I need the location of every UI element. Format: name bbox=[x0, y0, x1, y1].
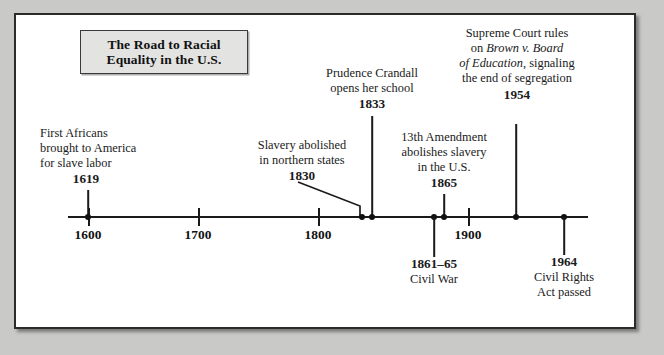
leader-stem-1861 bbox=[433, 217, 435, 257]
annotation-year: 1833 bbox=[310, 96, 434, 112]
annotation-line: Act passed bbox=[514, 285, 614, 300]
annotation-year: 1954 bbox=[458, 87, 576, 103]
annotation-line: brought to America bbox=[40, 141, 136, 156]
annotation-civil-war: 1861–65 Civil War bbox=[384, 256, 484, 287]
timeline-canvas: The Road to Racial Equality in the U.S. … bbox=[0, 0, 664, 355]
figure-title-box: The Road to Racial Equality in the U.S. bbox=[80, 30, 248, 74]
annotation-line: Civil Rights bbox=[514, 270, 614, 285]
event-dot-1619 bbox=[85, 214, 91, 220]
timeline-axis bbox=[68, 216, 588, 218]
annotation-line: abolishes slavery bbox=[386, 145, 502, 160]
annotation-prudence-crandall: Prudence Crandall opens her school 1833 bbox=[310, 66, 434, 112]
annotation-line: opens her school bbox=[310, 81, 434, 96]
annotation-text: on bbox=[471, 41, 487, 55]
axis-tick-label-1600: 1600 bbox=[75, 227, 102, 243]
annotation-line: in northern states bbox=[244, 153, 360, 168]
annotation-line: Civil War bbox=[384, 272, 484, 287]
annotation-year: 1619 bbox=[40, 171, 132, 187]
annotation-year: 1964 bbox=[514, 254, 614, 270]
annotation-line: Prudence Crandall bbox=[310, 66, 434, 81]
annotation-line: First Africans bbox=[40, 126, 136, 141]
axis-tick-1900 bbox=[468, 208, 470, 226]
axis-tick-1800 bbox=[318, 208, 320, 226]
figure-title-line-1: The Road to Racial bbox=[107, 37, 220, 52]
annotation-year: 1861–65 bbox=[384, 256, 484, 272]
annotation-first-africans: First Africans brought to America for sl… bbox=[40, 126, 136, 187]
annotation-line: for slave labor bbox=[40, 156, 136, 171]
axis-tick-label-1800: 1800 bbox=[305, 227, 332, 243]
leader-stem-1954 bbox=[515, 124, 517, 216]
case-name-italic: Brown v. Board bbox=[486, 41, 563, 55]
annotation-line: the end of segregation bbox=[458, 71, 576, 86]
axis-tick-label-1700: 1700 bbox=[185, 227, 212, 243]
annotation-line: Slavery abolished bbox=[244, 138, 360, 153]
leader-stem-1833 bbox=[371, 116, 373, 216]
annotation-line: on Brown v. Board bbox=[458, 41, 576, 56]
annotation-line: 13th Amendment bbox=[386, 130, 502, 145]
annotation-line: Supreme Court rules bbox=[458, 26, 576, 41]
annotation-slavery-abolished-north: Slavery abolished in northern states 183… bbox=[244, 138, 360, 184]
figure-title-line-2: Equality in the U.S. bbox=[107, 52, 222, 67]
leader-stem-1865 bbox=[443, 194, 445, 216]
event-dot-1833 bbox=[369, 214, 375, 220]
leader-stem-1964 bbox=[563, 217, 565, 255]
event-dot-1865 bbox=[441, 214, 447, 220]
annotation-line: of Education, signaling bbox=[458, 56, 576, 71]
annotation-thirteenth-amendment: 13th Amendment abolishes slavery in the … bbox=[386, 130, 502, 191]
annotation-text: , signaling bbox=[523, 56, 575, 70]
event-dot-1954 bbox=[513, 214, 519, 220]
axis-tick-1700 bbox=[198, 208, 200, 226]
annotation-year: 1865 bbox=[386, 175, 502, 191]
event-dot-1830 bbox=[359, 214, 365, 220]
axis-tick-label-1900: 1900 bbox=[455, 227, 482, 243]
timeline-figure: The Road to Racial Equality in the U.S. … bbox=[0, 0, 664, 355]
case-name-italic-cont: of Education bbox=[459, 56, 523, 70]
annotation-civil-rights-act: 1964 Civil Rights Act passed bbox=[514, 254, 614, 300]
annotation-brown-v-board: Supreme Court rules on Brown v. Board of… bbox=[458, 26, 576, 103]
annotation-line: in the U.S. bbox=[386, 160, 502, 175]
